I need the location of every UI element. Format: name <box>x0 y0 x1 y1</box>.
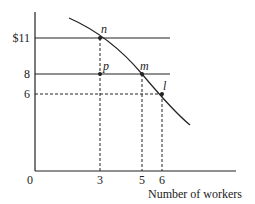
demand-curve <box>69 18 190 125</box>
labor-demand-diagram: n p m l $11 8 6 0 3 5 6 Number of worker… <box>0 0 255 204</box>
label-l: l <box>163 79 167 93</box>
point-p <box>98 72 102 76</box>
x-tick-3: 3 <box>97 173 103 187</box>
point-n <box>98 36 102 40</box>
x-axis-title: Number of workers <box>148 187 242 201</box>
label-n: n <box>101 22 107 36</box>
x-tick-6: 6 <box>159 173 165 187</box>
x-tick-5: 5 <box>139 173 145 187</box>
origin-label: 0 <box>27 173 33 187</box>
label-m: m <box>140 59 149 73</box>
label-p: p <box>102 59 109 73</box>
y-tick-11: $11 <box>12 31 30 45</box>
y-tick-8: 8 <box>24 67 30 81</box>
y-tick-6: 6 <box>24 87 30 101</box>
